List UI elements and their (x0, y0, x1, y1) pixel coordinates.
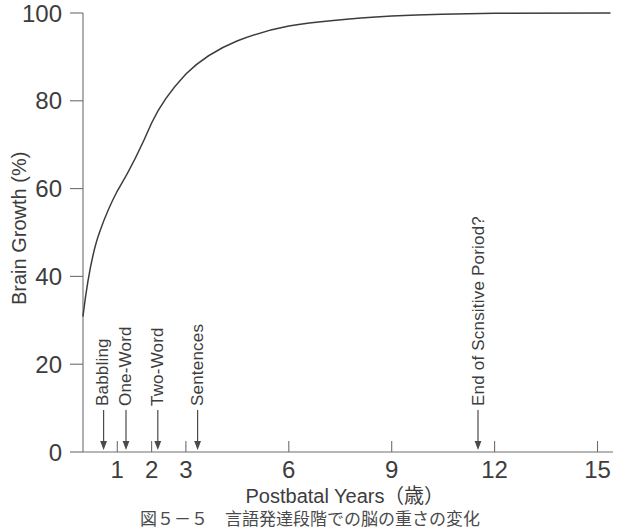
y-axis-title: Brain Growth (%) (8, 152, 30, 305)
annotation-label-two-word: Two-Word (148, 327, 167, 406)
x-tick-label-9: 9 (385, 456, 398, 483)
figure-container: 0 20 40 60 80 100 1 2 3 6 9 12 15 (0, 0, 621, 528)
x-tick-label-2: 2 (145, 456, 158, 483)
y-tick-label-100: 100 (22, 0, 62, 27)
brain-growth-line-chart: 0 20 40 60 80 100 1 2 3 6 9 12 15 (0, 0, 621, 528)
y-tick-label-40: 40 (35, 263, 62, 290)
annotation-label-one-word: One-Word (116, 326, 135, 406)
annotation-label-end-of-sensitive-period: End of Scnsitive Poriod? (469, 216, 488, 406)
x-tick-label-15: 15 (584, 456, 611, 483)
x-tick-label-1: 1 (111, 456, 124, 483)
y-tick-label-60: 60 (35, 175, 62, 202)
x-tick-label-6: 6 (282, 456, 295, 483)
annotation-label-babbling: Babbling (93, 338, 112, 406)
y-tick-label-20: 20 (35, 351, 62, 378)
figure-caption: 図５－５ 言語発達段階での脳の重さの変化 (140, 510, 480, 528)
x-axis-title: Postbatal Years（歳） (246, 485, 445, 507)
y-tick-label-80: 80 (35, 87, 62, 114)
chart-background (0, 0, 621, 528)
x-tick-label-12: 12 (481, 456, 508, 483)
x-tick-label-3: 3 (179, 456, 192, 483)
annotation-label-sentences: Sentences (188, 324, 207, 406)
y-tick-label-0: 0 (49, 439, 62, 466)
